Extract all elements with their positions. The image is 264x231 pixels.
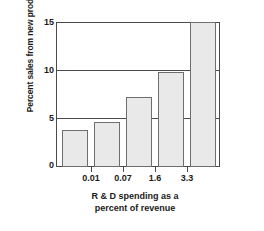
x-axis-title-line-1: R & D spending as a — [40, 190, 230, 202]
bar-1 — [62, 130, 88, 167]
x-tick-mark-1.6 — [155, 167, 156, 172]
bar-3 — [126, 97, 152, 167]
bar-2 — [94, 122, 120, 167]
x-tick-label-4: 3.3 — [167, 174, 207, 183]
y-tick-label-0: 0 — [32, 161, 54, 170]
x-tick-mark-0.07 — [123, 167, 124, 172]
y-tick-label-5: 5 — [32, 114, 54, 123]
plot-area: 0.01 0.07 1.6 3.3 — [56, 22, 220, 167]
y-axis-line — [56, 22, 57, 167]
y-tick-label-10: 10 — [32, 66, 54, 75]
bar-chart-figure: Percent sales from new products 15 10 5 … — [0, 0, 264, 231]
bar-4 — [158, 72, 184, 167]
plot-right-spine — [219, 22, 220, 167]
y-tick-label-15: 15 — [32, 18, 54, 27]
x-axis-title: R & D spending as a percent of revenue — [40, 190, 230, 214]
x-tick-mark-3.3 — [187, 167, 188, 172]
bar-5 — [190, 22, 216, 167]
x-tick-mark-0.01 — [91, 167, 92, 172]
x-axis-title-line-2: percent of revenue — [40, 202, 230, 214]
